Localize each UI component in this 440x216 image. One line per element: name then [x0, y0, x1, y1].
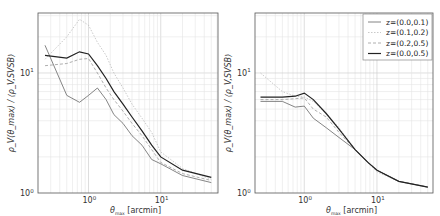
y-tick-label: 100: [237, 188, 251, 199]
y-axis-label: ρ_V(θ_max) / ⟨ρ_V,SVSB⟩: [224, 54, 233, 152]
y-tick-label: 100: [20, 188, 34, 199]
legend-label: z=(0.0,0.1): [386, 18, 428, 27]
x-axis-label: θmax [arcmin]: [110, 206, 161, 216]
series-z=(0.1,0.2): [45, 19, 211, 179]
legend-label: z=(0.1,0.2): [386, 28, 428, 37]
x-tick-label: 100: [298, 195, 312, 206]
series-z=(0.2,0.5): [45, 59, 211, 181]
x-tick-label: 101: [155, 195, 169, 206]
left-panel: 100101100101θmax [arcmin]ρ_V(θ_max) / ⟨ρ…: [7, 13, 218, 216]
plot-frame: [38, 13, 218, 193]
y-tick-label: 101: [237, 67, 251, 78]
grid: [38, 13, 218, 193]
series-z=(0.0,0.1): [261, 101, 428, 187]
series-z=(0.2,0.5): [261, 98, 428, 187]
x-tick-label: 100: [83, 195, 97, 206]
series-lines: [45, 19, 211, 182]
x-axis-label: θmax [arcmin]: [326, 206, 377, 216]
legend-label: z=(0.0,0.5): [386, 49, 428, 58]
legend: z=(0.0,0.1)z=(0.1,0.2)z=(0.2,0.5)z=(0.0,…: [363, 14, 432, 60]
figure: 100101100101θmax [arcmin]ρ_V(θ_max) / ⟨ρ…: [0, 0, 440, 216]
right-panel: 100101100101θmax [arcmin]ρ_V(θ_max) / ⟨ρ…: [224, 13, 433, 216]
series-lines: [261, 73, 428, 187]
series-z=(0.1,0.2): [261, 73, 428, 187]
legend-label: z=(0.2,0.5): [386, 39, 428, 48]
series-z=(0.0,0.5): [261, 93, 428, 187]
y-tick-label: 101: [20, 67, 34, 78]
x-tick-label: 101: [371, 195, 385, 206]
series-z=(0.0,0.1): [45, 45, 211, 182]
series-z=(0.0,0.5): [45, 52, 211, 178]
y-axis-label: ρ_V(θ_max) / ⟨ρ_V,SVSB⟩: [7, 54, 16, 152]
